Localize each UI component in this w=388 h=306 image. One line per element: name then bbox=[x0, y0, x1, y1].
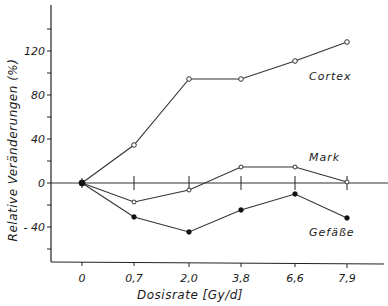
xtick-label-6-6: 6,6 bbox=[286, 272, 304, 285]
origin-marker bbox=[79, 180, 85, 186]
ytick-label-minus-40: - 40 bbox=[24, 221, 45, 234]
series-line-cortex bbox=[82, 42, 347, 183]
series-line-mark bbox=[82, 167, 347, 202]
series-line-gefaesse bbox=[82, 183, 347, 232]
x-axis bbox=[51, 262, 384, 264]
xtick-label-2-0: 2,0 bbox=[180, 272, 198, 285]
series-label-gefaesse: Gefäße bbox=[309, 226, 355, 239]
line-chart: 120 80 40 0 - 40 0 0,7 2,0 3,8 6,6 7,9 D… bbox=[0, 0, 388, 306]
xtick-label-0: 0 bbox=[79, 272, 86, 285]
series-label-cortex: Cortex bbox=[309, 70, 352, 83]
ytick-label-40: 40 bbox=[31, 133, 45, 146]
x-axis-title: Dosisrate [Gy/d] bbox=[137, 288, 243, 302]
ytick-label-80: 80 bbox=[31, 89, 45, 102]
series-label-mark: Mark bbox=[309, 151, 340, 164]
ytick-label-0: 0 bbox=[38, 177, 45, 190]
xtick-label-3-8: 3,8 bbox=[232, 272, 250, 285]
xtick-label-0-7: 0,7 bbox=[125, 272, 143, 285]
ytick-label-120: 120 bbox=[24, 45, 45, 58]
series-markers-cortex bbox=[132, 40, 350, 148]
y-axis-title: Relative Veränderungen (%) bbox=[6, 59, 20, 242]
xtick-label-7-9: 7,9 bbox=[338, 272, 356, 285]
